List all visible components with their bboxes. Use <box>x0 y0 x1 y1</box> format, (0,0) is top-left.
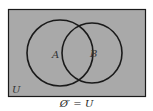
set-a-label: A <box>51 49 59 60</box>
set-b-label: B <box>89 48 97 59</box>
universe-rectangle <box>9 10 146 97</box>
universe-label: U <box>12 84 21 95</box>
caption: Ø′ = U <box>0 98 153 110</box>
venn-diagram: A B U <box>0 0 153 98</box>
